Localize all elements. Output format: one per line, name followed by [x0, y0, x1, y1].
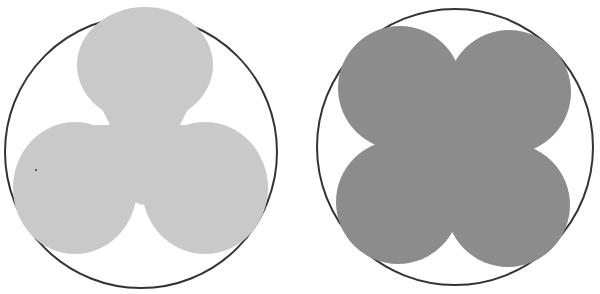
trefoil-panel: [5, 7, 277, 288]
speck: [35, 169, 37, 171]
quatrefoil-panel: [317, 9, 593, 285]
quatrefoil-shape: [336, 26, 571, 267]
trefoil-shape: [13, 7, 268, 254]
figure: [0, 0, 600, 294]
